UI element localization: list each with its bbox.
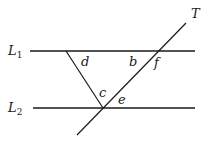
angle-c: c [99, 85, 107, 100]
label-t: T [191, 6, 201, 21]
angle-b: b [129, 54, 137, 69]
angle-d: d [81, 54, 89, 69]
transversal-t [77, 23, 186, 135]
angle-f: f [153, 55, 161, 70]
label-l1: L1 [7, 43, 22, 60]
geometry-diagram: L1 L2 T d b f c e [0, 0, 206, 142]
label-l2: L2 [7, 100, 22, 117]
angle-e: e [118, 92, 126, 107]
